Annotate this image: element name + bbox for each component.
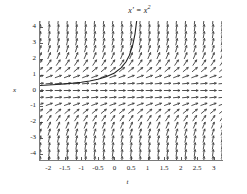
- plot-title-exponent: 2: [148, 4, 151, 10]
- solution-curve: [40, 21, 222, 160]
- y-tick-label: -3: [16, 133, 36, 141]
- x-axis-label: t: [0, 178, 247, 186]
- y-tick-label: -1: [16, 101, 36, 109]
- y-tick-label: 4: [16, 22, 36, 30]
- plot-area: [40, 21, 222, 160]
- y-tick-label: 0: [16, 86, 36, 94]
- y-tick-label: 1: [16, 70, 36, 78]
- plot-title: x' = x2: [0, 4, 247, 15]
- x-axis-line: [39, 160, 223, 161]
- x-tick-label: 3: [201, 164, 227, 172]
- plot-title-text: x' = x: [128, 6, 147, 15]
- y-tick-label: 3: [16, 38, 36, 46]
- y-tick-label: -2: [16, 117, 36, 125]
- y-tick-label: -4: [16, 149, 36, 157]
- solution-trajectory-path: [40, 21, 138, 85]
- y-tick-label: 2: [16, 54, 36, 62]
- direction-field-figure: x' = x2 x t 43210-1-2-3-4 -2-1.5-1-0.500…: [0, 0, 247, 194]
